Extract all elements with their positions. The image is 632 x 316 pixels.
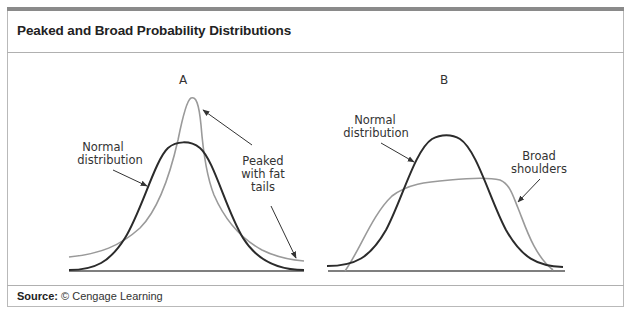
panel-b-label: B (440, 73, 448, 87)
distribution-chart: A Normal distribution Peaked with fat ta… (0, 0, 632, 316)
panel-b-broad-arrow (518, 179, 540, 202)
panel-b-normal-label-line2: distribution (343, 126, 409, 140)
panel-b-broad-label-line2: shoulders (511, 162, 567, 176)
panel-b-normal-label-line1: Normal (354, 113, 396, 127)
panel-a-peaked-arrow-top (203, 110, 252, 145)
panel-b-broad-curve (345, 178, 553, 271)
panel-a-peaked-label-line3: tails (251, 180, 275, 194)
panel-a-normal-label-line2: distribution (77, 153, 143, 167)
panel-a: A Normal distribution Peaked with fat ta… (69, 73, 304, 271)
panel-a-normal-label-line1: Normal (82, 140, 124, 154)
panel-b-normal-arrow (381, 143, 414, 162)
panel-a-label: A (179, 73, 188, 87)
panel-a-peaked-arrow-tail (271, 206, 296, 258)
panel-b: B Normal distribution Broad shoulders (327, 73, 567, 271)
panel-a-peaked-label-line2: with fat (241, 167, 285, 181)
panel-a-peaked-label-line1: Peaked (242, 154, 283, 168)
panel-a-normal-arrow (113, 170, 147, 186)
panel-b-broad-label-line1: Broad (522, 149, 556, 163)
